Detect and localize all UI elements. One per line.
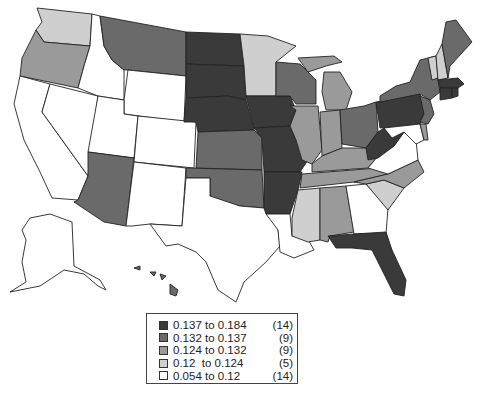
legend-count: (14) xyxy=(271,370,293,382)
state-co xyxy=(134,116,196,168)
legend-count: (14) xyxy=(271,319,293,331)
state-wa xyxy=(36,8,92,46)
legend-range: 0.137 to 0.184 xyxy=(173,319,271,331)
map-legend: 0.137 to 0.184 (14) 0.132 to 0.137 (9) 0… xyxy=(146,313,298,384)
legend-row: 0.124 to 0.132 (9) xyxy=(159,344,297,357)
state-fl xyxy=(328,232,406,296)
state-me xyxy=(442,20,472,78)
state-ak xyxy=(10,214,106,292)
legend-swatch-icon xyxy=(159,333,168,342)
legend-swatch-icon xyxy=(159,371,168,380)
legend-count: (9) xyxy=(271,344,293,356)
state-hi xyxy=(134,266,178,296)
state-ks xyxy=(196,130,262,170)
legend-count: (5) xyxy=(271,357,293,369)
legend-swatch-icon xyxy=(159,359,168,368)
legend-range: 0.132 to 0.137 xyxy=(173,332,271,344)
state-nm xyxy=(126,162,186,226)
state-ma xyxy=(438,78,464,88)
legend-row: 0.137 to 0.184 (14) xyxy=(159,319,297,332)
legend-count: (9) xyxy=(271,332,293,344)
legend-swatch-icon xyxy=(159,346,168,355)
legend-row: 0.054 to 0.12 (14) xyxy=(159,369,297,382)
state-ct xyxy=(440,88,452,100)
state-sd xyxy=(186,64,246,100)
legend-row: 0.132 to 0.137 (9) xyxy=(159,332,297,345)
state-wy xyxy=(124,70,186,122)
us-choropleth-map xyxy=(0,0,484,320)
state-ri xyxy=(452,88,458,98)
legend-range: 0.054 to 0.12 xyxy=(173,370,271,382)
state-nd xyxy=(186,32,244,66)
state-ia xyxy=(246,96,296,128)
legend-range: 0.124 to 0.132 xyxy=(173,344,271,356)
legend-range: 0.12 to 0.124 xyxy=(173,357,271,369)
legend-row: 0.12 to 0.124 (5) xyxy=(159,357,297,370)
legend-swatch-icon xyxy=(159,321,168,330)
